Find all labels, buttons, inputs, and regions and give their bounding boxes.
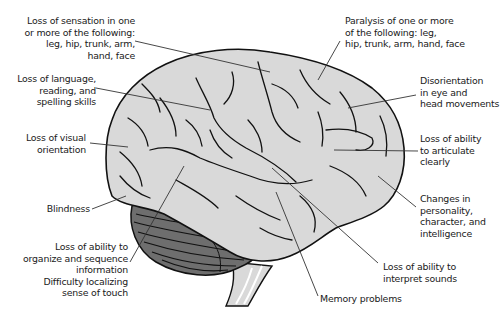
label-sensation-loss: Loss of sensation in one or more of the …	[14, 15, 135, 61]
label-language-loss: Loss of language, reading, and spelling …	[4, 73, 96, 108]
label-visual-orientation: Loss of visual orientation	[6, 132, 86, 155]
label-disorientation: Disorientation in eye and head movements	[420, 75, 500, 110]
label-blindness: Blindness	[6, 203, 90, 215]
label-paralysis: Paralysis of one or more of the followin…	[345, 15, 495, 50]
label-interpret-sounds: Loss of ability to interpret sounds	[383, 261, 493, 284]
label-organize-touch: Loss of ability to organize and sequence…	[14, 241, 128, 299]
label-personality: Changes in personality, character, and i…	[420, 193, 500, 239]
label-articulation: Loss of ability to articulate clearly	[420, 133, 500, 168]
label-memory: Memory problems	[320, 293, 430, 305]
